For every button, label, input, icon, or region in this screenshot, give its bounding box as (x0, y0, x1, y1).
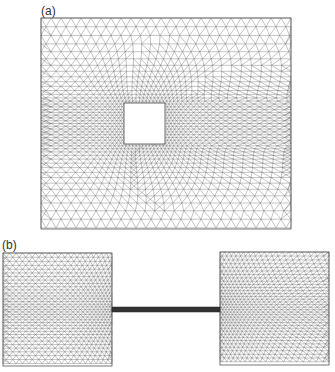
square-hole (124, 103, 165, 144)
mesh-panel-a (41, 18, 291, 229)
mesh-figure (0, 0, 335, 372)
connecting-bar (112, 307, 220, 312)
mesh-panel-b (3, 252, 329, 366)
